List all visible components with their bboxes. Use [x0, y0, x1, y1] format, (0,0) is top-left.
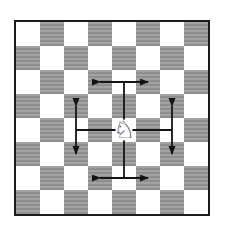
board-square [64, 22, 88, 46]
board-square [40, 22, 64, 46]
board-square [40, 94, 64, 118]
board-square [64, 190, 88, 214]
board-square [16, 94, 40, 118]
board-square [136, 190, 160, 214]
board-square [136, 22, 160, 46]
board-square [64, 46, 88, 70]
board-square [88, 94, 112, 118]
board-square [16, 22, 40, 46]
board-square [136, 118, 160, 142]
board-square [136, 46, 160, 70]
board-square [64, 166, 88, 190]
board-square [40, 190, 64, 214]
board-square [112, 70, 136, 94]
board-square [184, 70, 208, 94]
board-square [136, 94, 160, 118]
board-square [64, 94, 88, 118]
board-square [40, 118, 64, 142]
board-square [184, 118, 208, 142]
board-square [16, 70, 40, 94]
board-square [112, 142, 136, 166]
board-square [88, 70, 112, 94]
board-square [40, 46, 64, 70]
board-square [184, 190, 208, 214]
board-square [88, 166, 112, 190]
board-square [160, 22, 184, 46]
board-square [160, 190, 184, 214]
board-square [112, 94, 136, 118]
board-square [160, 142, 184, 166]
board-square [184, 142, 208, 166]
board-square [184, 22, 208, 46]
board-square [40, 70, 64, 94]
board-square [16, 166, 40, 190]
board-square [112, 22, 136, 46]
board-square [64, 70, 88, 94]
board-square [112, 190, 136, 214]
board-square [112, 166, 136, 190]
board-square [16, 190, 40, 214]
board-square [160, 46, 184, 70]
board-square [64, 142, 88, 166]
board-square [160, 118, 184, 142]
chessboard: ♘ [14, 20, 210, 216]
board-square [160, 70, 184, 94]
page: ♘ [0, 0, 228, 231]
board-square [160, 94, 184, 118]
board-square [112, 46, 136, 70]
board-square [40, 142, 64, 166]
board-square [16, 46, 40, 70]
board-square [136, 142, 160, 166]
white-knight-icon: ♘ [112, 118, 136, 142]
board-square [88, 190, 112, 214]
board-square [64, 118, 88, 142]
board-square [160, 166, 184, 190]
board-square [136, 166, 160, 190]
board-square [184, 166, 208, 190]
board-square [184, 94, 208, 118]
board-square [88, 46, 112, 70]
board-square [88, 118, 112, 142]
board-square [40, 166, 64, 190]
board-square [88, 22, 112, 46]
board-square [16, 142, 40, 166]
board-square [136, 70, 160, 94]
board-square [184, 46, 208, 70]
board-square [16, 118, 40, 142]
board-square [88, 142, 112, 166]
